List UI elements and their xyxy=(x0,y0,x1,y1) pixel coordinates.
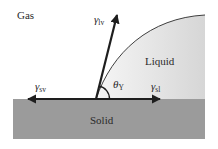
liquid-label: Liquid xyxy=(145,55,175,67)
gamma-sv-label: γsv xyxy=(35,80,46,94)
gamma-lv-label: γlv xyxy=(94,13,104,27)
solid-label: Solid xyxy=(90,114,114,126)
young-equation-diagram: Gas Liquid Solid γlv γsv γsl θY xyxy=(0,0,218,149)
gas-label: Gas xyxy=(17,9,34,21)
